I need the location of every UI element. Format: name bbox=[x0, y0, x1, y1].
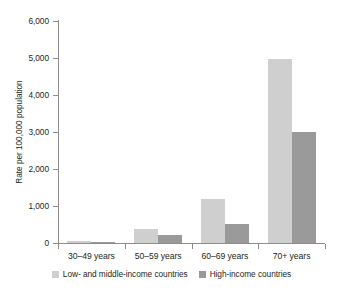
x-axis-category-label: 60–69 years bbox=[192, 252, 259, 261]
x-axis-tick bbox=[192, 244, 193, 249]
y-axis-tick-label: 6,000 bbox=[0, 17, 49, 25]
y-axis-tick-label: 5,000 bbox=[0, 54, 49, 62]
legend-swatch-icon bbox=[52, 271, 59, 278]
x-axis-category-label: 30–49 years bbox=[58, 252, 125, 261]
y-axis-tick-label: 3,000 bbox=[0, 128, 49, 136]
legend-item-label: High-income countries bbox=[210, 270, 292, 278]
legend-item[interactable]: Low- and middle-income countries bbox=[52, 270, 188, 278]
bar-1-0[interactable] bbox=[91, 242, 115, 243]
bar-1-1[interactable] bbox=[158, 235, 182, 243]
x-axis-tick bbox=[58, 244, 59, 249]
y-axis-tick-label: 4,000 bbox=[0, 91, 49, 99]
plot-area bbox=[58, 21, 325, 243]
x-axis-category-label: 70+ years bbox=[258, 252, 325, 261]
bar-0-1[interactable] bbox=[134, 229, 158, 243]
bar-chart-figure: Rate per 100,000 population 01,0002,0003… bbox=[0, 0, 343, 290]
bar-1-3[interactable] bbox=[292, 132, 316, 243]
chart-legend: Low- and middle-income countries High-in… bbox=[0, 270, 343, 278]
legend-item[interactable]: High-income countries bbox=[199, 270, 292, 278]
x-axis-tick bbox=[325, 244, 326, 249]
y-axis-tick-label: 0 bbox=[0, 239, 49, 247]
y-axis-tick-label: 2,000 bbox=[0, 165, 49, 173]
bar-0-0[interactable] bbox=[67, 241, 91, 243]
y-axis-tick-label: 1,000 bbox=[0, 202, 49, 210]
x-axis-tick bbox=[125, 244, 126, 249]
legend-swatch-icon bbox=[199, 271, 206, 278]
bar-0-2[interactable] bbox=[201, 199, 225, 243]
bar-0-3[interactable] bbox=[268, 59, 292, 243]
bar-1-2[interactable] bbox=[225, 224, 249, 243]
legend-item-label: Low- and middle-income countries bbox=[63, 270, 188, 278]
x-axis-tick bbox=[258, 244, 259, 249]
x-axis-category-label: 50–59 years bbox=[125, 252, 192, 261]
